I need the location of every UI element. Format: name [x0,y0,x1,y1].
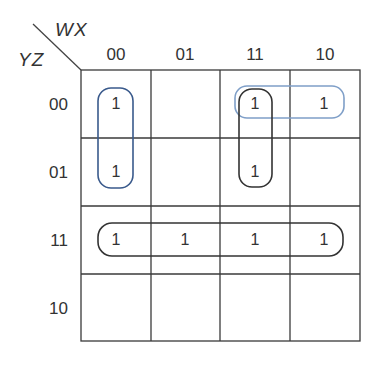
kmap-cell: 1 [314,231,334,249]
row-header: 10 [28,299,68,319]
row-variable-label: YZ [18,49,44,71]
col-header: 00 [86,45,146,65]
col-variable-label: WX [55,19,88,41]
kmap-cell: 1 [175,231,195,249]
kmap-cell: 1 [245,231,265,249]
kmap-cell: 1 [106,95,126,113]
kmap-cell: 1 [106,231,126,249]
kmap-cell: 1 [245,95,265,113]
kmap-cell: 1 [314,95,334,113]
kmap-cell: 1 [245,163,265,181]
kmap-cell: 1 [106,163,126,181]
row-header: 11 [28,231,68,251]
col-header: 10 [295,45,355,65]
col-header: 01 [155,45,215,65]
row-header: 01 [28,163,68,183]
col-header: 11 [225,45,285,65]
row-header: 00 [28,95,68,115]
